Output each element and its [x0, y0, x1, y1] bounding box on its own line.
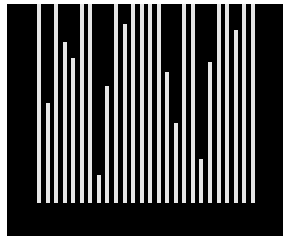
bar-14 [148, 4, 152, 203]
bar-17 [174, 123, 178, 203]
bar-15 [157, 4, 161, 203]
bar-5 [71, 58, 75, 203]
bar-3 [54, 4, 58, 203]
bar-7 [88, 4, 92, 203]
bar-16 [165, 72, 169, 203]
bar-21 [208, 62, 212, 203]
bar-26 [251, 4, 255, 203]
bar-22 [217, 4, 221, 203]
bar-19 [191, 4, 195, 203]
bar-1 [37, 4, 41, 203]
bar-13 [140, 4, 144, 203]
bar-24 [234, 30, 238, 203]
bar-12 [131, 4, 135, 203]
bar-10 [114, 4, 118, 203]
bar-9 [105, 86, 109, 203]
chart-frame [7, 4, 283, 236]
bar-18 [182, 4, 186, 203]
bar-6 [80, 4, 84, 203]
bar-plot-area [7, 4, 283, 236]
bar-20 [199, 159, 203, 203]
bar-8 [97, 175, 101, 203]
bar-2 [46, 103, 50, 203]
bar-25 [242, 4, 246, 203]
bar-23 [225, 4, 229, 203]
bar-11 [123, 24, 127, 203]
bar-4 [63, 42, 67, 203]
